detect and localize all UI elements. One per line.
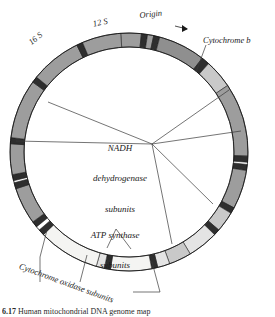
- genome-segment-nd2-region: [16, 184, 44, 221]
- genome-segment-rRNA-12S: [37, 45, 83, 86]
- figure-caption: 6.17 Human mitochondrial DNA genome map: [2, 308, 273, 317]
- genome-segment-origin-region: [121, 33, 142, 48]
- label-cytochrome-b: Cytochrome b: [203, 36, 251, 46]
- label-nadh-line1: NADH: [82, 143, 158, 153]
- label-atp-line2: subunits: [80, 260, 150, 270]
- genome-segment-d-loop-region: [83, 33, 122, 55]
- label-atp-line1: ATP synthase: [80, 230, 150, 240]
- genome-segment-tRNA-band-4: [234, 156, 248, 163]
- label-atp-synthase: ATP synthase subunits: [80, 210, 150, 291]
- figure-caption-number: 6.17: [2, 308, 16, 316]
- genome-segment-nd1-region: [10, 144, 26, 175]
- mitochondrial-genome-figure: 16 S 12 S Origin Cytochrome b NADH dehyd…: [0, 0, 275, 317]
- label-nadh-line2: dehydrogenase: [82, 173, 158, 183]
- figure-caption-text: Human mitochondrial DNA genome map: [18, 308, 150, 316]
